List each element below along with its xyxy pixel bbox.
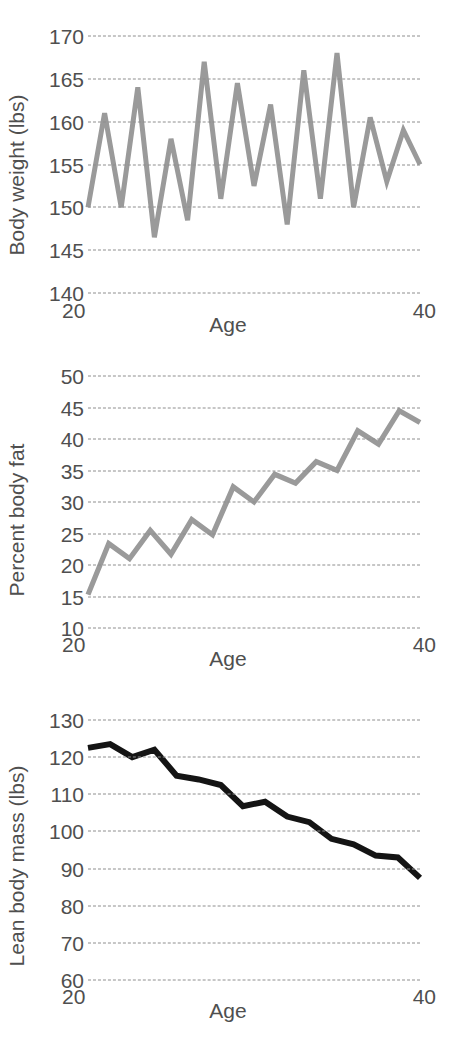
x-tick-right: 40 (413, 300, 436, 321)
chart-panel-body-weight: Body weight (lbs) 170165160155150145140 … (0, 0, 456, 350)
gridline (88, 376, 420, 377)
gridline (88, 628, 420, 629)
series-line (88, 0, 420, 350)
gridline (88, 794, 420, 795)
chart-panel-lean-body-mass: Lean body mass (lbs) 1301201101009080706… (0, 690, 456, 1042)
x-axis: 20 Age 40 (0, 986, 456, 1026)
y-tick-label: 15 (61, 586, 84, 607)
gridline (88, 502, 420, 503)
data-series-polyline (88, 744, 420, 878)
gridline (88, 164, 420, 165)
x-axis: 20 Age 40 (0, 634, 456, 674)
x-axis-title: Age (0, 1000, 456, 1021)
y-tick-labels: 170165160155150145140 (34, 0, 84, 350)
y-tick-label: 25 (61, 523, 84, 544)
y-tick-label: 70 (61, 932, 84, 953)
gridline (88, 36, 420, 37)
y-tick-label: 145 (49, 240, 84, 261)
y-tick-label: 80 (61, 895, 84, 916)
x-axis: 20 Age 40 (0, 300, 456, 340)
y-tick-label: 30 (61, 492, 84, 513)
y-tick-label: 130 (49, 710, 84, 731)
gridline (88, 868, 420, 869)
gridline (88, 407, 420, 408)
y-tick-label: 20 (61, 555, 84, 576)
y-tick-label: 120 (49, 747, 84, 768)
x-tick-right: 40 (413, 634, 436, 655)
gridline (88, 470, 420, 471)
gridline (88, 250, 420, 251)
y-tick-label: 170 (49, 26, 84, 47)
y-tick-label: 110 (51, 784, 84, 805)
gridline (88, 207, 420, 208)
y-tick-label: 50 (61, 366, 84, 387)
y-tick-label: 45 (61, 397, 84, 418)
gridline (88, 757, 420, 758)
gridline (88, 720, 420, 721)
gridline (88, 942, 420, 943)
gridline (88, 439, 420, 440)
y-tick-label: 35 (61, 460, 84, 481)
gridline (88, 905, 420, 906)
chart-panel-percent-body-fat: Percent body fat 504540353025201510 20 A… (0, 350, 456, 690)
gridline (88, 121, 420, 122)
data-series-polyline (88, 53, 420, 237)
gridline (88, 980, 420, 981)
y-axis-title: Body weight (lbs) (0, 0, 34, 350)
x-axis-title: Age (0, 314, 456, 335)
gridline (88, 533, 420, 534)
y-tick-label: 90 (61, 858, 84, 879)
gridline (88, 293, 420, 294)
x-tick-right: 40 (413, 986, 436, 1007)
gridline (88, 78, 420, 79)
x-axis-title: Age (0, 648, 456, 669)
gridline (88, 831, 420, 832)
y-tick-label: 155 (49, 154, 84, 175)
y-tick-label: 165 (49, 68, 84, 89)
y-tick-label: 150 (49, 197, 84, 218)
plot-area (88, 0, 420, 350)
y-tick-label: 40 (61, 429, 84, 450)
y-tick-label: 100 (49, 821, 84, 842)
gridline (88, 596, 420, 597)
y-tick-label: 160 (49, 111, 84, 132)
gridline (88, 565, 420, 566)
